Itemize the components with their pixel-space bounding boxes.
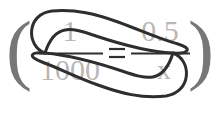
figure-canvas: ( ) 1 1000 = 0.5 x bbox=[0, 0, 219, 123]
equals-sign bbox=[109, 49, 125, 57]
right-parenthesis: ) bbox=[188, 5, 214, 92]
left-parenthesis: ( bbox=[6, 5, 32, 92]
equation-figure: ( ) 1 1000 = 0.5 x bbox=[0, 0, 219, 123]
